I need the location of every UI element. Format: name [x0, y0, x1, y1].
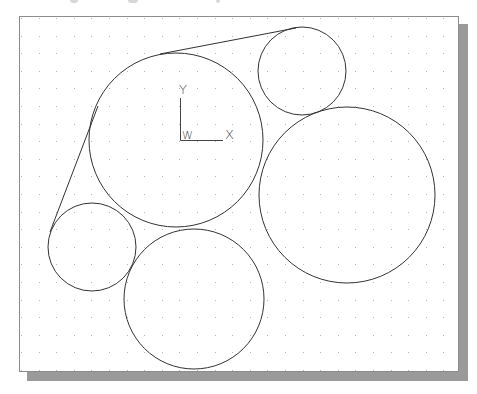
- drawing-canvas[interactable]: Y X W: [0, 0, 477, 394]
- ucs-world-label: W: [182, 129, 193, 142]
- line-top-tangent[interactable]: [160, 28, 296, 54]
- ucs-y-label: Y: [179, 82, 187, 97]
- grid-dots: [21, 18, 444, 371]
- ucs-x-label: X: [225, 127, 234, 142]
- circle-center-large[interactable]: [89, 53, 263, 227]
- circle-bottom-medium[interactable]: [124, 229, 264, 369]
- drawing-geometry: [48, 27, 435, 369]
- circle-top-right-small[interactable]: [258, 27, 346, 115]
